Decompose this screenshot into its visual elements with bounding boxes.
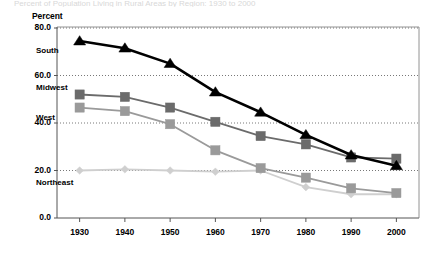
axis-lines	[54, 27, 419, 222]
rural-population-line-chart: Percent of Population Living in Rural Ar…	[0, 0, 433, 255]
x-tick-label: 1950	[150, 227, 190, 237]
y-tick-label: 60.0	[21, 70, 51, 80]
x-tick-label: 1930	[60, 227, 100, 237]
y-tick-label: 0.0	[21, 212, 51, 222]
x-tick-label: 1970	[241, 227, 281, 237]
series-layer	[74, 36, 403, 198]
x-tick-label: 1960	[195, 227, 235, 237]
y-tick-label: 80.0	[21, 22, 51, 32]
x-tick-label: 1980	[286, 227, 326, 237]
series-label-west: West	[36, 113, 55, 122]
series-label-south: South	[36, 46, 59, 55]
gridlines	[57, 28, 419, 171]
y-tick-label: 20.0	[21, 165, 51, 175]
x-tick-label: 1940	[105, 227, 145, 237]
x-tick-label: 1990	[331, 227, 371, 237]
plot-area	[0, 0, 433, 255]
series-label-midwest: Midwest	[36, 83, 68, 92]
x-tick-label: 2000	[376, 227, 416, 237]
series-label-northeast: Northeast	[36, 178, 73, 187]
